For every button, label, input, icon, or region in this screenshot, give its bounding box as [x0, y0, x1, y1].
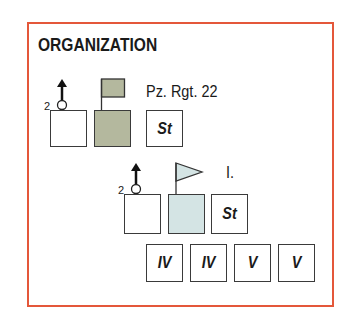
square-flag-icon: [94, 78, 134, 112]
regiment-label: Pz. Rgt. 22: [146, 82, 217, 102]
company-box: V: [278, 244, 315, 282]
company-box: IV: [146, 244, 183, 282]
motorized-vehicle-icon: [126, 163, 146, 195]
battalion-label: I.: [226, 163, 234, 183]
battalion-staff-box: St: [211, 194, 248, 234]
regiment-unit-box: [94, 110, 131, 147]
pennant-flag-icon: [168, 161, 208, 197]
battalion-staff-label: St: [215, 204, 245, 224]
company-label: IV: [194, 253, 224, 273]
company-box: IV: [190, 244, 227, 282]
battalion-unit-box: [168, 194, 205, 234]
motorized-vehicle-icon: [52, 79, 72, 111]
company-label: IV: [150, 253, 180, 273]
company-box: V: [234, 244, 271, 282]
company-label: V: [282, 253, 312, 273]
regiment-staff-box: St: [146, 110, 183, 147]
regiment-staff-label: St: [150, 119, 180, 139]
company-label: V: [238, 253, 268, 273]
battalion-hq-box: [124, 194, 161, 234]
organization-title: ORGANIZATION: [38, 34, 157, 56]
regiment-hq-box: [50, 110, 87, 147]
